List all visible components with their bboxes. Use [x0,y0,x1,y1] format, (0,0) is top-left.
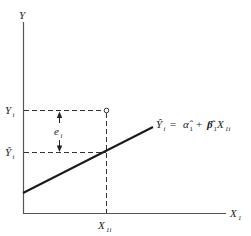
regression-diagram: Y X 1 e i Y i Ŷ i X 1i Ŷ i = α̂ 1 [0,0,251,236]
svg-text:i: i [13,111,15,119]
svg-text:i: i [13,153,15,161]
regression-line [23,127,153,193]
regression-equation: Ŷ i = α̂ 1 + β̂ 1 X 1i [156,118,231,133]
x-axis-label: X 1 [229,207,242,222]
observed-point [104,108,109,113]
svg-text:1: 1 [238,214,242,222]
svg-text:i: i [164,125,166,133]
svg-text:e: e [54,125,59,137]
svg-text:1i: 1i [225,125,231,133]
fitted-y-label: Ŷ i [5,146,15,161]
y-axis-label: Y [19,9,27,21]
svg-text:X: X [229,207,238,219]
svg-text:1i: 1i [106,226,112,234]
svg-text:1: 1 [190,125,194,133]
residual-label: e i [54,125,63,140]
svg-text:X: X [216,118,225,130]
observed-y-label: Y i [5,104,15,119]
svg-text:X: X [97,219,106,231]
x-point-label: X 1i [97,219,112,234]
svg-text:+: + [196,118,202,130]
svg-text:=: = [170,118,176,130]
svg-text:i: i [61,132,63,140]
